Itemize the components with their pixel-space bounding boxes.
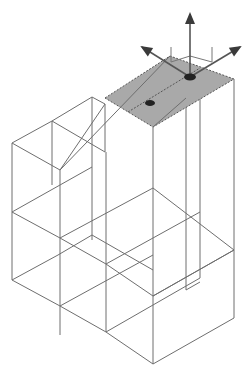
- wireframe-edge: [60, 306, 106, 332]
- wireframe-edge: [12, 280, 60, 306]
- wireframe-edge: [12, 212, 60, 238]
- wireframe-edge: [12, 255, 58, 280]
- wireframe-edge: [186, 282, 200, 290]
- wireframe-edge: [52, 97, 92, 121]
- gizmo-plane-bracket: [171, 47, 212, 62]
- wireframe-edge: [106, 305, 153, 332]
- selected-top-face[interactable]: [60, 56, 234, 170]
- wireframe-edge: [12, 121, 52, 143]
- wireframe-edge: [153, 188, 234, 250]
- wireframe-edge: [153, 318, 234, 364]
- arrow-left-icon[interactable]: [140, 46, 153, 57]
- wireframe-edge: [58, 235, 92, 255]
- wireframe-edges: [12, 79, 234, 364]
- arrow-up-icon[interactable]: [185, 12, 195, 24]
- gizmo-center-handle-icon[interactable]: [184, 74, 196, 81]
- wireframe-edge: [153, 212, 200, 238]
- wireframe-edge: [60, 104, 105, 170]
- face-handle-icon[interactable]: [145, 100, 155, 106]
- isometric-wireframe-diagram: [0, 0, 251, 371]
- wireframe-edge: [106, 264, 153, 296]
- wireframe-edge: [106, 238, 153, 264]
- arrow-right-icon[interactable]: [229, 46, 242, 56]
- wireframe-edge: [106, 332, 153, 364]
- wireframe-edge: [92, 235, 153, 270]
- selected-face-fill[interactable]: [105, 56, 234, 127]
- wireframe-edge: [60, 238, 106, 264]
- wireframe-edge: [92, 97, 105, 104]
- wireframe-edge: [52, 121, 105, 152]
- wireframe-edge: [153, 250, 234, 296]
- wireframe-edge: [12, 143, 60, 170]
